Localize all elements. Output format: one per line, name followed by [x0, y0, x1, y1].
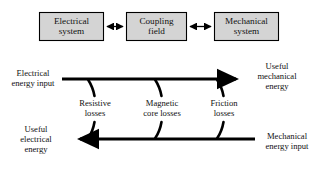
friction-loss-hook-upper — [217, 80, 224, 97]
magnetic-loss-hook-upper — [155, 80, 162, 97]
useful-mechanical-energy-label: Useful mechanical energy — [243, 62, 311, 91]
electrical-system-label-line1: Electrical — [40, 16, 104, 26]
coupling-field-label-line1: Coupling — [127, 16, 187, 26]
friction-loss-hook-lower — [217, 122, 224, 139]
electrical-system-label: Electrical system — [40, 16, 104, 37]
electrical-system-label-line2: system — [40, 26, 104, 36]
magnetic-core-losses-label: Magnetic core losses — [132, 99, 192, 119]
useful-electrical-energy-label: Useful electrical energy — [6, 125, 66, 154]
resistive-loss-hook-lower — [88, 122, 95, 139]
energy-conversion-figure: Electrical system Coupling field Mechani… — [0, 0, 317, 170]
magnetic-core-losses-line2: core losses — [132, 109, 192, 119]
resistive-loss-hook-upper — [88, 80, 95, 97]
electrical-energy-input-line2: energy input — [3, 79, 63, 89]
useful-mechanical-energy-line3: energy — [243, 82, 311, 92]
electrical-energy-input-label: Electrical energy input — [3, 69, 63, 89]
mechanical-energy-input-label: Mechanical energy input — [258, 132, 316, 152]
magnetic-loss-hook-lower — [155, 122, 162, 139]
coupling-field-label-line2: field — [127, 26, 187, 36]
coupling-field-label: Coupling field — [127, 16, 187, 37]
mechanical-energy-input-line2: energy input — [258, 142, 316, 152]
mechanical-system-label-line2: system — [215, 26, 279, 36]
useful-electrical-energy-line3: energy — [6, 145, 66, 155]
mechanical-system-label: Mechanical system — [215, 16, 279, 37]
mechanical-system-label-line1: Mechanical — [215, 16, 279, 26]
resistive-losses-line2: losses — [68, 109, 122, 119]
friction-losses-label: Friction losses — [198, 99, 250, 119]
friction-losses-line2: losses — [198, 109, 250, 119]
resistive-losses-label: Resistive losses — [68, 99, 122, 119]
